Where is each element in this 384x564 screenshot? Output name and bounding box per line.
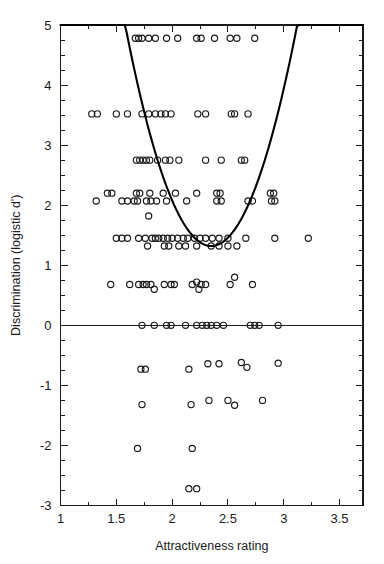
y-tick-label: -1: [40, 378, 52, 393]
x-tick-label: 1: [57, 511, 64, 526]
x-tick-label: 2: [169, 511, 176, 526]
x-axis-major-ticks: [61, 25, 340, 506]
data-point: [136, 235, 142, 241]
data-point: [113, 111, 119, 117]
x-axis-tick-labels: 11.522.533.5: [57, 511, 349, 526]
data-point: [124, 111, 130, 117]
data-point: [147, 190, 153, 196]
x-tick-label: 3.5: [331, 511, 349, 526]
data-point: [172, 190, 178, 196]
data-point: [139, 402, 145, 408]
y-tick-label: 1: [44, 258, 51, 273]
data-point: [146, 111, 152, 117]
data-point: [109, 190, 115, 196]
data-point: [195, 111, 201, 117]
y-tick-label: -2: [40, 438, 52, 453]
data-point: [216, 361, 222, 367]
y-axis-title: Discrimination (logistic d'): [9, 195, 23, 336]
data-point: [188, 402, 194, 408]
data-point: [151, 286, 157, 292]
scatter-plot-figure: 11.522.533.5 -3-2-1012345 Attractiveness…: [0, 0, 384, 564]
data-point: [272, 235, 278, 241]
data-point: [194, 243, 200, 249]
plot-frame: [61, 25, 364, 506]
data-point: [225, 397, 231, 403]
axis-frame: [61, 25, 364, 506]
plot-svg: 11.522.533.5 -3-2-1012345 Attractiveness…: [0, 0, 384, 564]
data-point: [232, 402, 238, 408]
y-tick-label: -3: [40, 498, 52, 513]
data-point: [161, 281, 167, 287]
data-point: [194, 190, 200, 196]
data-point: [185, 235, 191, 241]
data-point: [146, 35, 152, 41]
y-tick-label: 0: [44, 318, 51, 333]
data-point: [259, 397, 265, 403]
data-point: [175, 35, 181, 41]
data-point: [189, 445, 195, 451]
y-tick-label: 3: [44, 138, 51, 153]
data-point: [134, 445, 140, 451]
data-point: [182, 243, 188, 249]
data-point: [152, 35, 158, 41]
data-point: [127, 281, 133, 287]
data-point: [163, 35, 169, 41]
x-axis-title: Attractiveness rating: [155, 539, 268, 553]
data-point: [245, 111, 251, 117]
x-tick-label: 3: [280, 511, 287, 526]
data-point: [249, 281, 255, 287]
data-point: [227, 35, 233, 41]
data-point: [144, 243, 150, 249]
data-point: [176, 157, 182, 163]
data-point: [167, 157, 173, 163]
data-point: [232, 274, 238, 280]
data-point: [205, 361, 211, 367]
data-point-series: [89, 35, 312, 492]
data-point: [166, 243, 172, 249]
data-point: [209, 235, 215, 241]
data-point: [93, 198, 99, 204]
data-point: [252, 35, 258, 41]
data-point: [275, 360, 281, 366]
y-tick-label: 5: [44, 18, 51, 33]
data-point: [243, 235, 249, 241]
y-tick-label: 2: [44, 198, 51, 213]
data-point: [184, 198, 190, 204]
data-point: [146, 213, 152, 219]
x-tick-label: 2.5: [219, 511, 237, 526]
data-point: [234, 35, 240, 41]
data-point: [218, 198, 224, 204]
data-point: [211, 35, 217, 41]
data-point: [203, 111, 209, 117]
data-point: [216, 235, 222, 241]
data-point: [227, 281, 233, 287]
data-point: [203, 281, 209, 287]
data-point: [176, 243, 182, 249]
data-point: [186, 366, 192, 372]
y-axis-major-ticks: [61, 25, 364, 506]
data-point: [238, 359, 244, 365]
data-point: [198, 35, 204, 41]
x-axis-minor-ticks: [61, 25, 340, 506]
data-point: [194, 486, 200, 492]
data-point: [203, 157, 209, 163]
data-point: [234, 243, 240, 249]
quadratic-fit-curve: [61, 25, 364, 246]
data-point: [206, 397, 212, 403]
data-point: [305, 235, 311, 241]
data-point: [244, 364, 250, 370]
y-axis-minor-ticks: [61, 25, 364, 506]
data-point: [186, 486, 192, 492]
data-point: [163, 198, 169, 204]
data-point: [108, 281, 114, 287]
y-axis-tick-labels: -3-2-1012345: [40, 18, 52, 514]
data-point: [142, 235, 148, 241]
fit-curve-group: [61, 25, 364, 246]
x-tick-label: 1.5: [107, 511, 125, 526]
data-point: [218, 157, 224, 163]
data-point: [142, 366, 148, 372]
y-tick-label: 4: [44, 78, 51, 93]
data-point: [160, 190, 166, 196]
data-point: [225, 243, 231, 249]
